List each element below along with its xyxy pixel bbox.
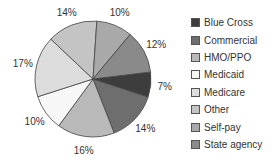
legend-swatch — [191, 18, 200, 27]
legend-label: Medicare — [204, 87, 245, 98]
pie-label: 16% — [74, 145, 94, 156]
legend-swatch — [191, 140, 200, 149]
pie-label: 10% — [25, 116, 45, 127]
legend-item: Medicaid — [191, 66, 262, 83]
pie-chart: 7%14%16%10%17%14%10%12% — [0, 0, 180, 162]
pie-label: 17% — [13, 58, 33, 69]
legend-label: Medicaid — [204, 69, 244, 80]
legend-label: Self-pay — [204, 122, 241, 133]
legend-swatch — [191, 53, 200, 62]
legend: Blue Cross Commercial HMO/PPO Medicaid M… — [191, 14, 262, 153]
legend-item: State agency — [191, 136, 262, 153]
legend-swatch — [191, 123, 200, 132]
legend-label: Commercial — [204, 35, 257, 46]
legend-swatch — [191, 88, 200, 97]
legend-item: Other — [191, 101, 262, 118]
legend-label: Blue Cross — [204, 17, 253, 28]
pie-label: 10% — [110, 7, 130, 18]
legend-label: HMO/PPO — [204, 52, 251, 63]
legend-item: Blue Cross — [191, 14, 262, 31]
legend-label: Other — [204, 104, 229, 115]
legend-swatch — [191, 105, 200, 114]
legend-label: State agency — [204, 139, 262, 150]
legend-item: Commercial — [191, 31, 262, 48]
pie-label: 7% — [157, 81, 172, 92]
pie-label: 14% — [57, 7, 77, 18]
legend-item: Self-pay — [191, 118, 262, 135]
pie-label: 14% — [135, 123, 155, 134]
pie-slices — [35, 21, 151, 137]
legend-item: Medicare — [191, 84, 262, 101]
pie-label: 12% — [146, 39, 166, 50]
legend-swatch — [191, 36, 200, 45]
legend-swatch — [191, 70, 200, 79]
legend-item: HMO/PPO — [191, 49, 262, 66]
